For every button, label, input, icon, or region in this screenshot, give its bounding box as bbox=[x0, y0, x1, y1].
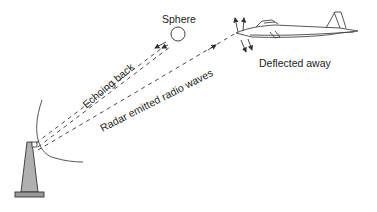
radar-diagram: Sphere Deflected away Echoing back Radar… bbox=[0, 0, 377, 212]
radar-tower bbox=[15, 142, 44, 197]
deflected-label: Deflected away bbox=[259, 57, 331, 69]
sphere bbox=[171, 27, 185, 41]
diagram-canvas bbox=[0, 0, 377, 212]
waves-to-aircraft bbox=[38, 33, 236, 150]
stealth-aircraft bbox=[236, 12, 358, 38]
wave-arrow bbox=[208, 45, 216, 50]
sphere-label: Sphere bbox=[162, 13, 196, 25]
